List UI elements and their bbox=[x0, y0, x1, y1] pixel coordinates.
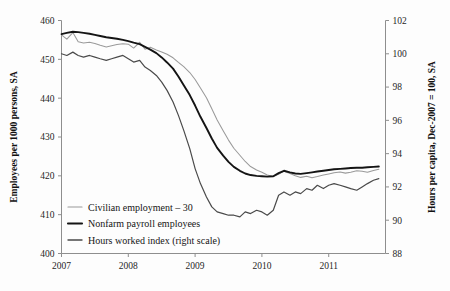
y-axis-left-tick-label: 400 bbox=[40, 249, 55, 259]
x-axis-tick-label: 2010 bbox=[252, 261, 271, 271]
series-line bbox=[62, 32, 379, 177]
legend-label: Hours worked index (right scale) bbox=[88, 235, 220, 247]
y-axis-right-tick-label: 94 bbox=[393, 149, 403, 159]
y-axis-right-tick-label: 100 bbox=[393, 49, 408, 59]
y-axis-left-tick-label: 450 bbox=[40, 55, 55, 65]
chart-figure: 4004104204304404504608890929496981001022… bbox=[0, 0, 450, 291]
x-axis-tick-label: 2009 bbox=[186, 261, 205, 271]
y-axis-left-tick-label: 420 bbox=[40, 171, 55, 181]
chart-axes: 4004104204304404504608890929496981001022… bbox=[40, 16, 407, 271]
y-axis-right-tick-label: 102 bbox=[393, 16, 408, 26]
series-line bbox=[62, 52, 379, 217]
y-axis-right-tick-label: 98 bbox=[393, 82, 403, 92]
legend-label: Nonfarm payroll employees bbox=[88, 218, 200, 229]
series-line bbox=[62, 33, 379, 178]
y-axis-left-title: Employees per 1000 persons, SA bbox=[9, 71, 19, 203]
y-axis-left-tick-label: 410 bbox=[40, 210, 55, 220]
chart-legend: Civilian employment – 30Nonfarm payroll … bbox=[68, 202, 220, 247]
chart-series bbox=[62, 32, 379, 217]
chart-axis-titles: Employees per 1000 persons, SAHours per … bbox=[9, 61, 437, 213]
y-axis-right-title: Hours per capita, Dec-2007 = 100, SA bbox=[427, 61, 437, 213]
legend-label: Civilian employment – 30 bbox=[88, 202, 193, 213]
y-axis-left-tick-label: 440 bbox=[40, 94, 55, 104]
y-axis-right-tick-label: 92 bbox=[393, 182, 403, 192]
y-axis-left-tick-label: 460 bbox=[40, 16, 55, 26]
y-axis-right-tick-label: 96 bbox=[393, 116, 403, 126]
y-axis-right-tick-label: 90 bbox=[393, 216, 403, 226]
y-axis-left-tick-label: 430 bbox=[40, 132, 55, 142]
x-axis-tick-label: 2008 bbox=[119, 261, 138, 271]
x-axis-tick-label: 2011 bbox=[319, 261, 338, 271]
chart-canvas: 4004104204304404504608890929496981001022… bbox=[0, 0, 450, 291]
x-axis-tick-label: 2007 bbox=[52, 261, 71, 271]
y-axis-right-tick-label: 88 bbox=[393, 249, 403, 259]
